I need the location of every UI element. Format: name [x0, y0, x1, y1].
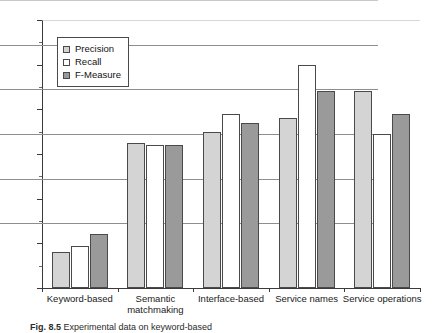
- x-tick-3: [344, 288, 345, 292]
- legend-swatch-recall: [63, 59, 70, 66]
- bar-recall-3: [298, 65, 316, 288]
- x-tick-2: [269, 288, 270, 292]
- bar-precision-4: [354, 91, 372, 288]
- chart-legend: Precision Recall F-Measure: [57, 37, 129, 87]
- legend-label-fmeasure: F-Measure: [75, 70, 121, 80]
- bar-precision-2: [203, 132, 221, 288]
- legend-label-recall: Recall: [75, 57, 101, 67]
- bar-recall-2: [222, 114, 240, 288]
- legend-swatch-precision: [63, 46, 70, 53]
- x-tick-1: [193, 288, 194, 292]
- x-tick-0: [118, 288, 119, 292]
- x-axis-label-4: Service operations: [336, 293, 428, 304]
- bar-f-measure-0: [90, 234, 108, 288]
- x-tick-origin: [42, 288, 43, 292]
- bar-precision-3: [279, 118, 297, 288]
- bar-f-measure-3: [317, 91, 335, 288]
- bar-recall-1: [146, 145, 164, 288]
- bar-f-measure-2: [241, 123, 259, 288]
- bar-f-measure-4: [392, 114, 410, 288]
- legend-label-precision: Precision: [75, 44, 114, 54]
- x-axis-line: [42, 288, 421, 289]
- legend-item-precision: Precision: [63, 43, 121, 55]
- legend-item-recall: Recall: [63, 56, 121, 68]
- figure-container: 020406080100120 Keyword-basedSemantic ma…: [0, 0, 437, 333]
- legend-item-fmeasure: F-Measure: [63, 69, 121, 81]
- legend-swatch-fmeasure: [63, 72, 70, 79]
- bar-precision-1: [127, 143, 145, 288]
- caption-number: Fig. 8.5: [30, 322, 61, 332]
- bar-recall-0: [71, 246, 89, 288]
- x-tick-4: [420, 288, 421, 292]
- caption-text: Experimental data on keyword-based: [64, 322, 213, 332]
- bar-f-measure-1: [165, 145, 183, 288]
- bar-recall-4: [373, 134, 391, 288]
- figure-caption: Fig. 8.5 Experimental data on keyword-ba…: [30, 322, 212, 333]
- gridline-120: [0, 0, 378, 1]
- bar-precision-0: [52, 252, 70, 288]
